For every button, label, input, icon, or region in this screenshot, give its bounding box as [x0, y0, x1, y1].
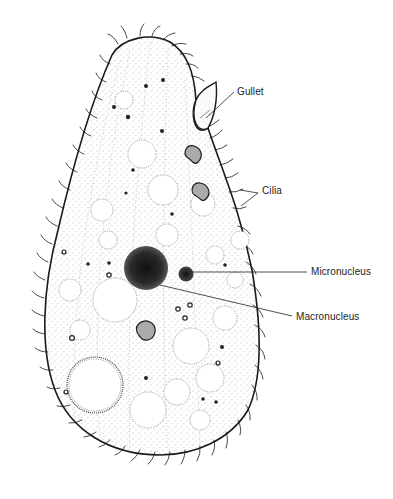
paramecium-diagram	[0, 0, 393, 499]
label-cilia: Cilia	[262, 185, 282, 196]
gullet-structure	[194, 82, 217, 129]
cilia-leader-upper	[240, 190, 258, 193]
label-gullet: Gullet	[237, 86, 264, 97]
cilia-leader-lower	[241, 193, 258, 206]
label-micronucleus: Micronucleus	[311, 266, 371, 277]
micronucleus-shape	[179, 267, 194, 282]
macronucleus-shape	[124, 246, 168, 290]
label-macronucleus: Macronucleus	[296, 311, 359, 322]
